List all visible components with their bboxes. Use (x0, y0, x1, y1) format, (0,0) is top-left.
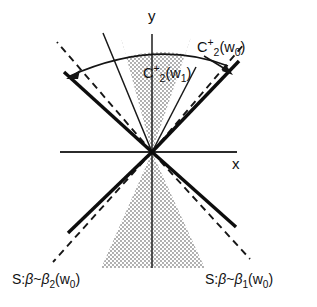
sector-label-beta1: S:β~β1(w0) (205, 272, 273, 290)
sector-label-beta2-arg: (w (55, 271, 70, 287)
cone-label-w1-arg: (w (165, 65, 180, 81)
cone-label-w1-argend: ) (187, 65, 192, 81)
label-pointer-group (204, 56, 233, 75)
cone-label-w0-argend: ) (241, 39, 246, 55)
cone-label-w0: C+2(w0) (197, 38, 245, 58)
sector-label-beta1-argend: ) (268, 271, 273, 287)
sector-label-beta2: S:β~β2(w0) (12, 272, 80, 290)
upper-stippled-cone (112, 30, 200, 152)
x-axis-label: x (232, 156, 240, 171)
sector-label-beta2-prefix: S: (12, 271, 25, 287)
cone-label-w1: C+2(w1) (143, 64, 191, 84)
figure-root: y x C+2(w0) C+2(w1) S:β~β2(w0) S:β~β1(w0… (0, 0, 317, 307)
lower-stippled-cone (101, 152, 205, 268)
sector-label-beta2-argend: ) (75, 271, 80, 287)
cone-label-w1-base: C (143, 65, 153, 81)
figure-canvas (0, 0, 317, 307)
sector-label-beta1-arg: (w (248, 271, 263, 287)
sector-label-beta1-prefix: S: (205, 271, 218, 287)
cone-label-w0-base: C (197, 39, 207, 55)
cone-label-w0-arg: (w (219, 39, 234, 55)
y-axis-label: y (148, 8, 156, 23)
